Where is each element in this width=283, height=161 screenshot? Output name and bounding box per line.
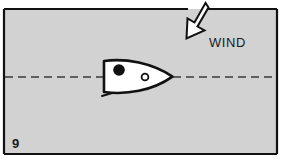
wind-label: WIND [209, 35, 246, 50]
figure-canvas: WIND 9 [0, 0, 283, 161]
sailing-diagram: WIND 9 [0, 0, 283, 161]
mast-marker [113, 64, 125, 76]
figure-number: 9 [12, 136, 19, 151]
sail-block-fitting [142, 74, 149, 81]
